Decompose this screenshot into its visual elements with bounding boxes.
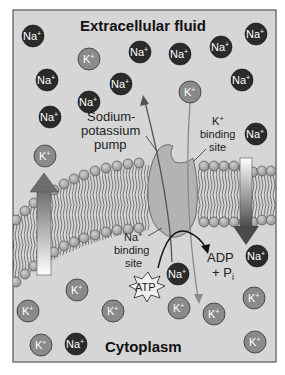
na-ion: Na+	[39, 106, 61, 128]
na-binding-label-3: site	[125, 257, 142, 269]
k-binding-label-2: binding	[200, 128, 235, 140]
na-ion: Na+	[129, 41, 151, 63]
k-ion: K+	[168, 297, 190, 319]
na-ion: Na+	[22, 25, 44, 47]
na-ion: Na+	[36, 69, 58, 91]
cytoplasm-label: Cytoplasm	[105, 338, 182, 355]
na-binding-label-2: binding	[114, 244, 149, 256]
k-ion: K+	[102, 300, 124, 322]
na-ion: Na+	[167, 263, 189, 285]
atp-label: ATP	[135, 281, 156, 293]
k-ion: K+	[34, 145, 56, 167]
k-ion: K+	[17, 300, 39, 322]
k-binding-label-3: site	[209, 141, 226, 153]
extracellular-label: Extracellular fluid	[80, 17, 206, 34]
na-ion: Na+	[231, 69, 253, 91]
na-ion: Na+	[110, 73, 132, 95]
k-ion: K+	[243, 287, 265, 309]
pump-label-3: pump	[94, 137, 127, 152]
lipid-bilayer-right	[198, 161, 278, 227]
k-ion: K+	[179, 81, 201, 103]
na-ion: Na+	[245, 123, 267, 145]
products-label-1: ADP	[207, 250, 234, 265]
sodium-potassium-pump-diagram: Extracellular fluid Cytoplasm Sodium- po…	[0, 0, 285, 375]
k-ion: K+	[30, 334, 52, 356]
k-ion: K+	[244, 331, 266, 353]
k-ion: K+	[203, 303, 225, 325]
products-label-2: + Pi	[212, 265, 234, 282]
na-ion: Na+	[245, 23, 267, 45]
na-ion: Na+	[169, 43, 191, 65]
na-ion: Na+	[246, 245, 268, 267]
na-ion: Na+	[65, 333, 87, 355]
na-ion: Na+	[210, 36, 232, 58]
atp-burst: ATP	[129, 272, 165, 302]
k-ion: K+	[78, 48, 100, 70]
k-ion: K+	[66, 279, 88, 301]
pump-label-2: potassium	[81, 123, 140, 138]
na-ion: Na+	[78, 91, 100, 113]
